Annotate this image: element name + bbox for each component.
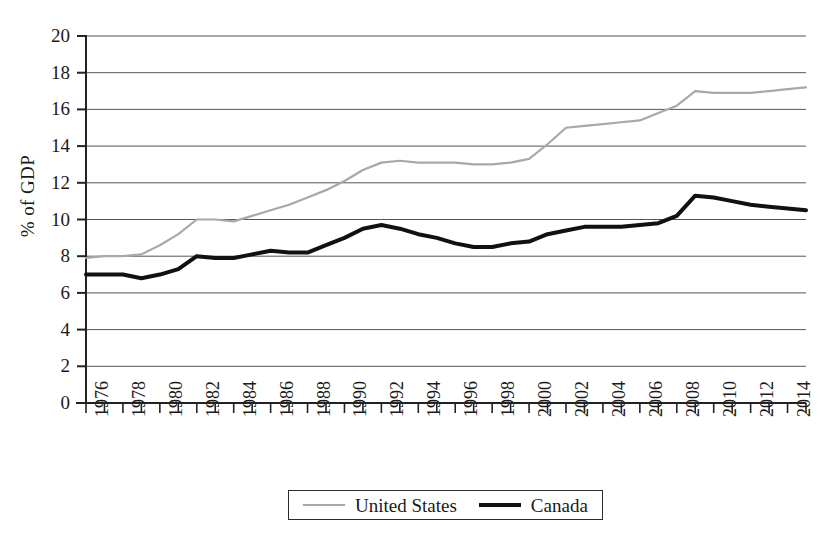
legend-line-swatch-canada (479, 503, 521, 507)
chart-legend: United States Canada (288, 490, 603, 520)
chart-container: % of GDP 02468101214161820 1976197819801… (0, 0, 830, 542)
legend-line-swatch-united-states (303, 504, 345, 506)
legend-item-canada: Canada (479, 496, 588, 515)
legend-item-united-states: United States (303, 496, 457, 515)
series-line-united-states (86, 87, 806, 258)
series-line-canada (86, 196, 806, 279)
plot-area (0, 0, 830, 542)
legend-label-canada: Canada (531, 496, 588, 515)
legend-label-united-states: United States (355, 496, 457, 515)
